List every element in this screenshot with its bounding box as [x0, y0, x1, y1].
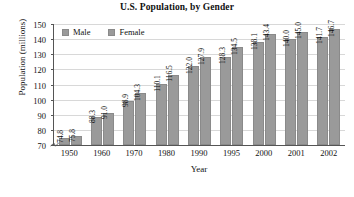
x-tick-label: 2002 — [320, 148, 337, 158]
bar-female: 104.3 — [135, 93, 146, 145]
legend-item-male: Male — [62, 27, 90, 37]
bar-group: 110.1116.5 — [156, 24, 179, 145]
bar-value-label: 127.9 — [198, 48, 206, 65]
bar-group: 74.875.8 — [59, 24, 82, 145]
y-tick-label: 130 — [33, 50, 46, 60]
bar-male: 138.1 — [253, 42, 264, 145]
x-tick-label: 1950 — [61, 148, 78, 158]
bar-value-label: 134.5 — [230, 38, 238, 55]
bar-value-label: 146.7 — [327, 20, 335, 37]
bar-female: 116.5 — [168, 75, 179, 145]
plot-area: 708090100110120130140150 74.875.888.391.… — [53, 24, 345, 146]
y-tick-label: 120 — [33, 65, 46, 75]
bar-value-label: 91.0 — [101, 106, 109, 119]
y-tick-label: 80 — [38, 126, 47, 136]
bar-value-label: 104.3 — [133, 84, 141, 101]
bar-value-label: 141.7 — [315, 27, 323, 44]
x-tick-label: 1990 — [190, 148, 207, 158]
x-axis-title: Year — [53, 164, 345, 174]
x-tick-label: 2001 — [288, 148, 305, 158]
legend-label: Male — [73, 27, 90, 37]
bar-value-label: 116.5 — [166, 65, 174, 82]
y-tick-label: 140 — [33, 35, 46, 45]
bar-group: 141.7146.7 — [317, 24, 340, 145]
bar-male: 141.7 — [317, 37, 328, 145]
bar-female: 145.0 — [297, 32, 308, 145]
bar-chart: U.S. Population, by Gender Population (m… — [0, 0, 354, 197]
bar-female: 134.5 — [232, 47, 243, 145]
bar-value-label: 110.1 — [154, 75, 162, 92]
legend-swatch-icon — [62, 29, 69, 36]
bar-male: 128.3 — [220, 57, 231, 145]
x-axis-ticks: 195019601970198019901995200020012002 — [53, 148, 345, 158]
x-tick-label: 1995 — [223, 148, 240, 158]
bar-value-label: 75.8 — [69, 129, 77, 142]
bar-group: 88.391.0 — [91, 24, 114, 145]
y-axis-title: Population (millions) — [17, 0, 27, 122]
bar-female: 91.0 — [103, 113, 114, 145]
bar-male: 110.1 — [156, 84, 167, 145]
bar-value-label: 140.0 — [283, 30, 291, 47]
y-tick-label: 70 — [38, 141, 47, 151]
bar-group: 140.0145.0 — [285, 24, 308, 145]
legend-item-female: Female — [108, 27, 144, 37]
bar-value-label: 128.3 — [218, 47, 226, 64]
bar-value-label: 143.4 — [263, 25, 271, 42]
bar-male: 122.0 — [188, 66, 199, 145]
legend-swatch-icon — [108, 29, 115, 36]
bar-groups: 74.875.888.391.098.9104.3110.1116.5122.0… — [54, 24, 345, 145]
y-tick-label: 90 — [38, 111, 47, 121]
bar-group: 138.1143.4 — [253, 24, 276, 145]
bar-value-label: 98.9 — [121, 94, 129, 107]
bar-value-label: 74.8 — [57, 130, 65, 143]
bar-value-label: 88.3 — [89, 110, 97, 123]
bar-male: 140.0 — [285, 39, 296, 145]
bar-male: 88.3 — [91, 117, 102, 145]
bar-female: 146.7 — [329, 29, 340, 145]
bar-value-label: 145.0 — [295, 22, 303, 39]
x-tick-label: 1980 — [158, 148, 175, 158]
bar-female: 127.9 — [200, 57, 211, 145]
bar-group: 122.0127.9 — [188, 24, 211, 145]
y-tick-label: 110 — [34, 81, 46, 91]
bar-group: 128.3134.5 — [220, 24, 243, 145]
bar-group: 98.9104.3 — [123, 24, 146, 145]
bar-male: 98.9 — [123, 101, 134, 145]
bar-female: 75.8 — [71, 136, 82, 145]
y-tick-label: 100 — [33, 96, 46, 106]
bar-female: 143.4 — [265, 34, 276, 145]
chart-legend: MaleFemale — [62, 27, 145, 37]
x-tick-label: 1970 — [126, 148, 143, 158]
legend-label: Female — [119, 27, 144, 37]
x-tick-label: 1960 — [93, 148, 110, 158]
bar-value-label: 138.1 — [251, 33, 259, 50]
y-tick-label: 150 — [33, 20, 46, 30]
chart-title: U.S. Population, by Gender — [0, 2, 354, 12]
x-tick-label: 2000 — [255, 148, 272, 158]
bar-value-label: 122.0 — [186, 57, 194, 74]
